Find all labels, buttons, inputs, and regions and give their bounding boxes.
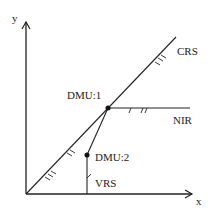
crs-label: CRS: [177, 45, 198, 57]
nir-hatch-marks: [129, 108, 147, 113]
dmu1-point: [106, 106, 111, 111]
vrs-segment: [87, 108, 108, 155]
x-axis-label: x: [196, 195, 202, 207]
y-axis-label: y: [12, 12, 18, 24]
nir-label: NIR: [173, 114, 193, 126]
dmu1-label: DMU:1: [67, 89, 101, 101]
vrs-label: VRS: [95, 177, 116, 189]
vrs-hatch-mark: [87, 174, 91, 178]
crs-frontier: [26, 37, 176, 194]
dmu2-point: [85, 153, 90, 158]
frontier-diagram: y x CRS NIR VRS DMU:1 DMU:2: [0, 0, 210, 214]
dmu2-label: DMU:2: [95, 151, 129, 163]
